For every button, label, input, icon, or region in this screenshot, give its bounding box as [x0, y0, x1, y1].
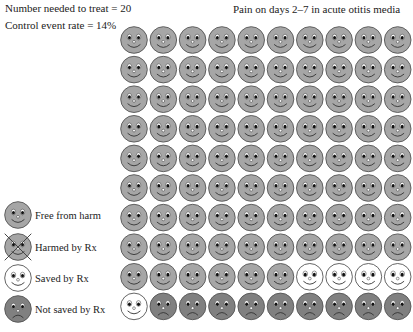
- face-free-icon: [121, 56, 148, 83]
- face-free-icon: [238, 204, 265, 231]
- face-free-icon: [297, 27, 324, 54]
- face-free-icon: [179, 56, 206, 83]
- legend-label-free: Free from harm: [35, 210, 101, 222]
- face-free-icon: [355, 145, 382, 172]
- face-notsaved-icon: [267, 293, 294, 320]
- face-free-icon: [150, 86, 177, 113]
- legend-label-notsaved: Not saved by Rx: [35, 304, 105, 316]
- face-free-icon: [384, 175, 411, 202]
- face-free-icon: [179, 234, 206, 261]
- face-free-icon: [355, 27, 382, 54]
- face-free-icon: [150, 175, 177, 202]
- face-free-icon: [355, 86, 382, 113]
- face-free-icon: [238, 116, 265, 143]
- legend-free-icon: [5, 202, 32, 229]
- face-saved-icon: [121, 293, 148, 320]
- face-free-icon: [355, 234, 382, 261]
- legend-label-harmed: Harmed by Rx: [35, 242, 97, 254]
- face-free-icon: [121, 27, 148, 54]
- face-free-icon: [179, 264, 206, 291]
- face-notsaved-icon: [179, 293, 206, 320]
- face-free-icon: [297, 234, 324, 261]
- face-free-icon: [326, 56, 353, 83]
- face-notsaved-icon: [355, 293, 382, 320]
- face-free-icon: [384, 234, 411, 261]
- face-free-icon: [121, 234, 148, 261]
- face-free-icon: [326, 204, 353, 231]
- face-free-icon: [179, 175, 206, 202]
- face-free-icon: [267, 116, 294, 143]
- face-saved-icon: [355, 264, 382, 291]
- face-free-icon: [238, 175, 265, 202]
- legend-notsaved-icon: [5, 296, 32, 323]
- face-free-icon: [209, 234, 236, 261]
- legend-label-saved: Saved by Rx: [35, 273, 89, 285]
- legend-harmed-icon: [5, 234, 32, 261]
- face-free-icon: [121, 86, 148, 113]
- face-free-icon: [267, 27, 294, 54]
- face-free-icon: [355, 175, 382, 202]
- face-notsaved-icon: [209, 293, 236, 320]
- face-free-icon: [121, 145, 148, 172]
- face-free-icon: [121, 116, 148, 143]
- face-free-icon: [179, 145, 206, 172]
- face-free-icon: [150, 145, 177, 172]
- face-free-icon: [326, 116, 353, 143]
- face-free-icon: [297, 145, 324, 172]
- face-free-icon: [267, 204, 294, 231]
- face-free-icon: [384, 56, 411, 83]
- face-notsaved-icon: [297, 293, 324, 320]
- face-free-icon: [384, 145, 411, 172]
- face-free-icon: [267, 264, 294, 291]
- face-free-icon: [384, 27, 411, 54]
- face-free-icon: [209, 86, 236, 113]
- face-free-icon: [150, 116, 177, 143]
- face-free-icon: [209, 27, 236, 54]
- face-free-icon: [384, 86, 411, 113]
- face-free-icon: [238, 264, 265, 291]
- face-free-icon: [150, 56, 177, 83]
- face-saved-icon: [326, 264, 353, 291]
- face-free-icon: [267, 234, 294, 261]
- face-free-icon: [355, 204, 382, 231]
- face-free-icon: [238, 234, 265, 261]
- face-free-icon: [209, 116, 236, 143]
- face-notsaved-icon: [384, 293, 411, 320]
- face-free-icon: [179, 86, 206, 113]
- face-free-icon: [355, 116, 382, 143]
- face-free-icon: [209, 56, 236, 83]
- face-saved-icon: [297, 264, 324, 291]
- face-free-icon: [121, 204, 148, 231]
- face-notsaved-icon: [326, 293, 353, 320]
- face-free-icon: [297, 56, 324, 83]
- face-free-icon: [121, 264, 148, 291]
- face-free-icon: [267, 175, 294, 202]
- face-free-icon: [209, 204, 236, 231]
- face-free-icon: [267, 86, 294, 113]
- face-free-icon: [179, 116, 206, 143]
- face-free-icon: [297, 204, 324, 231]
- face-free-icon: [209, 175, 236, 202]
- face-free-icon: [150, 27, 177, 54]
- face-free-icon: [150, 204, 177, 231]
- face-free-icon: [179, 27, 206, 54]
- legend-saved-icon: [5, 265, 32, 292]
- face-free-icon: [209, 264, 236, 291]
- face-free-icon: [238, 56, 265, 83]
- face-free-icon: [179, 204, 206, 231]
- face-free-icon: [326, 145, 353, 172]
- face-free-icon: [150, 264, 177, 291]
- face-free-icon: [384, 116, 411, 143]
- face-free-icon: [238, 27, 265, 54]
- face-free-icon: [209, 145, 236, 172]
- face-notsaved-icon: [238, 293, 265, 320]
- face-free-icon: [297, 116, 324, 143]
- face-free-icon: [297, 175, 324, 202]
- face-saved-icon: [384, 264, 411, 291]
- face-free-icon: [326, 175, 353, 202]
- face-free-icon: [121, 175, 148, 202]
- face-free-icon: [326, 86, 353, 113]
- face-free-icon: [238, 86, 265, 113]
- face-free-icon: [355, 56, 382, 83]
- face-notsaved-icon: [150, 293, 177, 320]
